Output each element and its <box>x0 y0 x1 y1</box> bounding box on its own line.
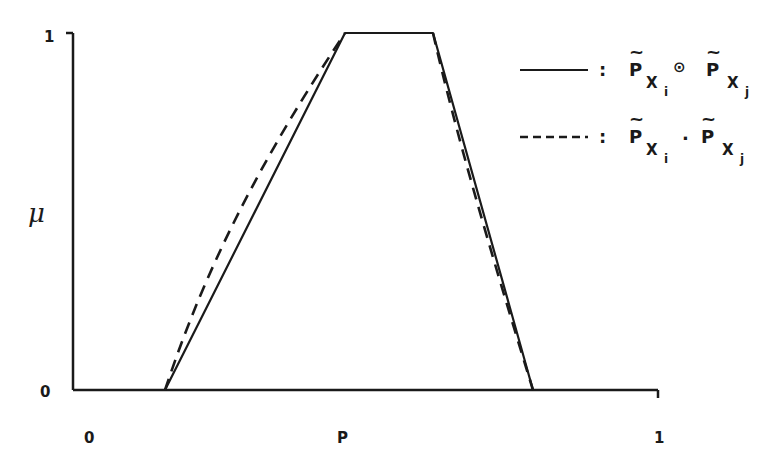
y-tick-0: 0 <box>40 383 50 401</box>
chart-canvas: 1 0 0 1 μ P : ~ P X i ⊙ ~ P X j : ~ P X … <box>0 0 782 465</box>
legend-sub2: X <box>727 74 739 92</box>
legend-item-dashed: : ~ P X i · ~ P X j <box>520 108 744 166</box>
legend-operator-dot: · <box>682 128 689 149</box>
legend-operator-circle: ⊙ <box>673 58 686 76</box>
legend-item-solid: : ~ P X i ⊙ ~ P X j <box>520 41 749 99</box>
legend-separator: : <box>599 126 606 147</box>
legend: : ~ P X i ⊙ ~ P X j : ~ P X i · ~ P X j <box>520 41 749 166</box>
legend-sub2-j: j <box>744 85 749 99</box>
legend-p2: P <box>701 126 714 147</box>
series-solid-line <box>165 33 533 390</box>
x-tick-1: 1 <box>654 429 664 447</box>
legend-sub1: X <box>646 141 658 159</box>
legend-p2: P <box>706 59 719 80</box>
legend-p1: P <box>629 59 642 80</box>
legend-separator: : <box>599 59 606 80</box>
y-axis-title: μ <box>28 198 45 228</box>
legend-sub2: X <box>722 141 734 159</box>
legend-sub2-j: j <box>739 152 744 166</box>
y-tick-1: 1 <box>44 28 54 46</box>
legend-p1: P <box>629 126 642 147</box>
x-tick-0: 0 <box>84 429 94 447</box>
series-dashed-line <box>165 33 533 390</box>
legend-sub1: X <box>646 74 658 92</box>
axes <box>66 33 658 398</box>
legend-sub1-i: i <box>664 85 668 99</box>
legend-sub1-i: i <box>664 152 668 166</box>
x-axis-title: P <box>337 429 348 447</box>
